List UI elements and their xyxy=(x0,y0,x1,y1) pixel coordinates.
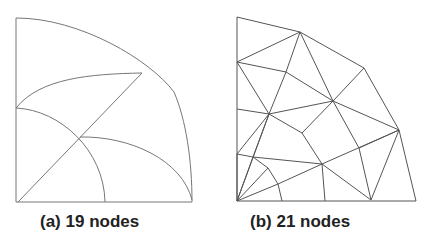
mesh-figures xyxy=(0,0,429,244)
mesh-edge xyxy=(237,17,300,32)
mesh-edge xyxy=(278,164,322,184)
mesh-edge xyxy=(269,72,286,114)
mesh-edge xyxy=(237,62,269,114)
mesh-edge xyxy=(322,164,325,201)
mesh-edge xyxy=(237,168,268,201)
mesh-edge xyxy=(237,184,278,201)
mesh-edge xyxy=(18,73,142,202)
caption-figure-a: (a) 19 nodes xyxy=(40,212,139,232)
mesh-edge xyxy=(399,130,416,201)
mesh-edge xyxy=(333,101,399,130)
mesh-edge xyxy=(269,101,333,114)
mesh-edge xyxy=(16,108,105,202)
mesh-edge xyxy=(16,73,142,108)
mesh-edge xyxy=(237,157,253,201)
mesh-edge xyxy=(302,133,322,164)
mesh-edge xyxy=(237,154,253,157)
mesh-edge xyxy=(269,114,302,133)
mesh-edge xyxy=(302,101,333,133)
figure-a-curved-mesh xyxy=(16,18,192,202)
mesh-edge xyxy=(364,68,399,130)
mesh-edge xyxy=(253,157,322,164)
mesh-edge xyxy=(237,114,269,154)
mesh-edge xyxy=(333,101,359,148)
mesh-edge xyxy=(16,18,174,92)
figure-b-triangular-mesh xyxy=(237,17,416,201)
mesh-edge xyxy=(333,68,364,101)
mesh-edge xyxy=(237,62,286,72)
mesh-edge xyxy=(278,184,282,201)
mesh-edge xyxy=(268,168,278,184)
mesh-edge xyxy=(174,92,192,202)
caption-figure-b: (b) 21 nodes xyxy=(250,212,350,232)
mesh-edge xyxy=(80,137,192,200)
mesh-edge xyxy=(237,109,269,114)
mesh-edge xyxy=(300,32,364,68)
